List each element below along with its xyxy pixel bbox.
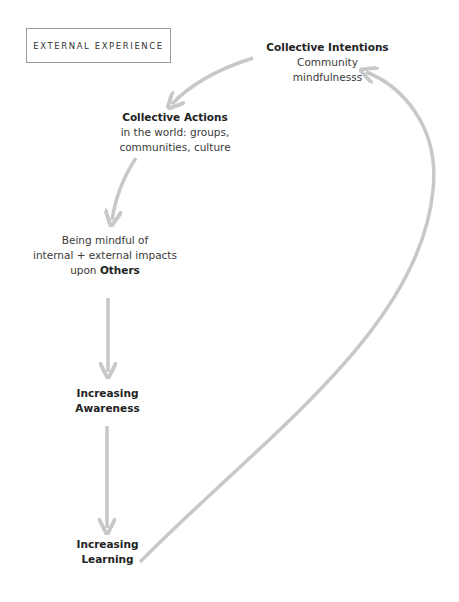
node-collective-intentions: Collective Intentions Community mindfuln… [260, 40, 395, 85]
flow-arrows [0, 0, 459, 602]
arrow-actions-to-mindful [112, 158, 136, 220]
node-mindful-of-others: Being mindful of internal + external imp… [30, 233, 180, 278]
node-collective-actions: Collective Actions in the world: groups,… [105, 110, 245, 155]
node-increasing-learning: Increasing Learning [60, 537, 155, 567]
arrow-intentions-to-actions [172, 58, 253, 104]
node-increasing-awareness: Increasing Awareness [60, 386, 155, 416]
external-experience-label: EXTERNAL EXPERIENCE [26, 28, 171, 63]
